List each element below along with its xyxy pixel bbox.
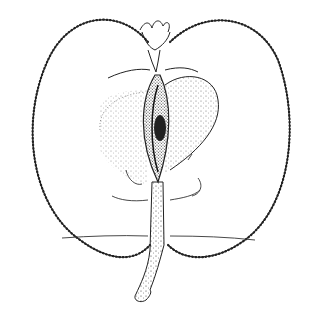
apple-illustration	[0, 0, 318, 316]
seed	[154, 115, 166, 141]
calyx	[108, 21, 198, 78]
stem	[135, 182, 164, 302]
